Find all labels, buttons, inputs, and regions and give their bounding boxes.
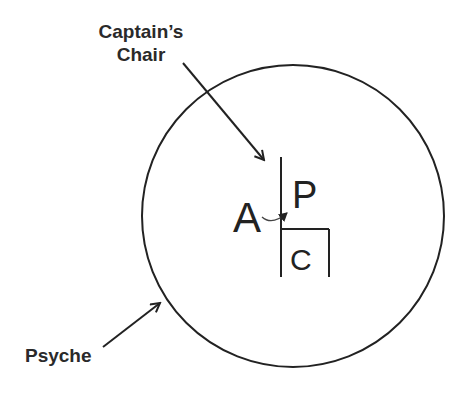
psyche-diagram: Captain’s Chair A P C Psyche bbox=[0, 0, 468, 399]
captains-chair-label-line1: Captain’s bbox=[99, 21, 184, 42]
a-to-p-arrow bbox=[262, 213, 287, 221]
psyche-arrow bbox=[103, 303, 160, 347]
psyche-circle bbox=[142, 65, 444, 367]
letter-c: C bbox=[290, 243, 312, 276]
psyche-label: Psyche bbox=[25, 345, 92, 366]
letter-p: P bbox=[292, 174, 317, 216]
captains-chair-label-line2: Chair bbox=[117, 44, 166, 65]
letter-a: A bbox=[233, 194, 261, 241]
captains-chair-arrow bbox=[183, 63, 264, 160]
